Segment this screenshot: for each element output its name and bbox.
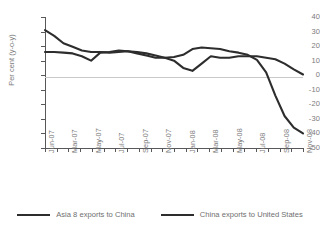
legend-item[interactable]: China exports to United States: [161, 211, 303, 219]
chart-series-layer: [0, 0, 320, 229]
legend-label: Asia 8 exports to China: [56, 211, 135, 219]
chart-legend: Asia 8 exports to ChinaChina exports to …: [0, 204, 320, 226]
legend-swatch: [161, 214, 194, 217]
series-line: [45, 30, 303, 74]
legend-item[interactable]: Asia 8 exports to China: [17, 211, 135, 219]
chart-container: Per cent (y-o-y) 403020100-10-20-30-40-5…: [0, 0, 320, 229]
legend-swatch: [17, 214, 50, 217]
legend-label: China exports to United States: [200, 211, 303, 219]
